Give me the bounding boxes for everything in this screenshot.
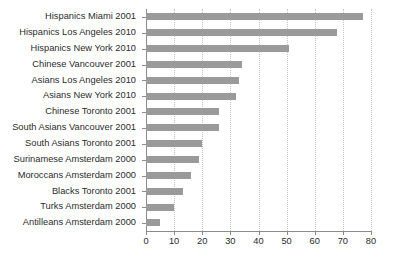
bar-row [146,57,371,73]
bar-chart: Hispanics Miami 2001Hispanics Los Angele… [0,0,398,258]
bar [146,172,191,179]
y-axis-label: Asians Los Angeles 2010 [32,76,136,85]
gridline-80 [371,9,372,231]
x-axis-tick-60 [315,231,316,235]
y-axis-label: Turks Amsterdam 2000 [40,202,136,211]
bar [146,156,199,163]
bar [146,219,160,226]
x-axis-tick-label-50: 50 [281,237,291,246]
bar-row [146,41,371,57]
bar [146,140,202,147]
x-axis-tick-30 [230,231,231,235]
bar [146,29,337,36]
x-axis-tick-label-60: 60 [310,237,320,246]
bar [146,204,174,211]
x-axis-tick-20 [202,231,203,235]
x-axis-tick-70 [343,231,344,235]
y-axis-label-row: Hispanics Miami 2001 [0,9,141,25]
y-axis-label-row: Antilleans Amsterdam 2000 [0,215,141,231]
y-axis-label-row: Hispanics Los Angeles 2010 [0,25,141,41]
bar-row [146,72,371,88]
x-axis-tick-label-30: 30 [225,237,235,246]
y-axis-label: Hispanics Los Angeles 2010 [19,28,136,37]
bar-row [146,120,371,136]
y-axis-label-row: Chinese Vancouver 2001 [0,57,141,73]
x-axis-tick-50 [287,231,288,235]
x-axis-tick-label-10: 10 [169,237,179,246]
y-axis-label: Surinamese Amsterdam 2000 [14,155,136,164]
y-axis-label: Antilleans Amsterdam 2000 [23,218,136,227]
bar-row [146,215,371,231]
plot-area [146,9,371,231]
y-axis-label-row: Hispanics New York 2010 [0,41,141,57]
bar [146,45,289,52]
bar [146,77,239,84]
y-axis-label-row: Turks Amsterdam 2000 [0,199,141,215]
x-axis-tick-label-20: 20 [197,237,207,246]
bar [146,93,236,100]
y-axis-labels: Hispanics Miami 2001Hispanics Los Angele… [0,9,141,231]
bar-row [146,104,371,120]
y-axis-label: South Asians Vancouver 2001 [12,123,136,132]
x-axis-tick-10 [174,231,175,235]
y-axis-label-row: Surinamese Amsterdam 2000 [0,152,141,168]
x-axis-tick-0 [146,231,147,235]
bar [146,61,242,68]
bar-row [146,152,371,168]
y-axis-label-row: Chinese Toronto 2001 [0,104,141,120]
y-axis-label: Hispanics Miami 2001 [45,12,136,21]
x-axis-tick-label-0: 0 [143,237,148,246]
y-axis-label: South Asians Toronto 2001 [25,139,136,148]
bar-row [146,88,371,104]
bar [146,124,219,131]
y-axis-label: Moroccans Amsterdam 2000 [18,171,136,180]
bar-row [146,167,371,183]
y-axis-label: Chinese Vancouver 2001 [32,60,136,69]
x-axis-tick-40 [259,231,260,235]
y-axis-label-row: Blacks Toronto 2001 [0,183,141,199]
y-axis-label: Hispanics New York 2010 [31,44,136,53]
y-axis-label-row: Asians Los Angeles 2010 [0,72,141,88]
y-axis-label-row: Asians New York 2010 [0,88,141,104]
bar-row [146,183,371,199]
y-axis-label: Blacks Toronto 2001 [52,187,136,196]
bar-row [146,136,371,152]
x-axis-tick-80 [371,231,372,235]
x-axis-tick-label-40: 40 [253,237,263,246]
bar [146,13,363,20]
bar [146,188,183,195]
y-axis-label-row: South Asians Toronto 2001 [0,136,141,152]
bar-row [146,25,371,41]
y-axis-label: Asians New York 2010 [43,91,136,100]
x-axis-tick-label-70: 70 [338,237,348,246]
y-axis-label-row: Moroccans Amsterdam 2000 [0,167,141,183]
x-axis-tick-label-80: 80 [366,237,376,246]
bar-rows [146,9,371,231]
y-axis-label-row: South Asians Vancouver 2001 [0,120,141,136]
bar-row [146,199,371,215]
bar-row [146,9,371,25]
y-axis-line [146,9,147,231]
y-axis-label: Chinese Toronto 2001 [45,107,136,116]
bar [146,108,219,115]
